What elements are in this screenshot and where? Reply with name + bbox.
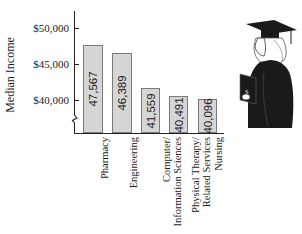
- y-tick-label: $40,000: [33, 94, 69, 106]
- bar-value: 46,389: [116, 75, 128, 110]
- y-tick: [74, 28, 79, 29]
- y-tick-label: $50,000: [33, 22, 69, 34]
- bar-engineering: 46,389: [112, 53, 132, 133]
- bar-value: 41,559: [145, 93, 157, 128]
- axis-break-icon: [69, 112, 81, 126]
- y-tick: [74, 100, 79, 101]
- bar-physical-therapy: 40,491: [169, 96, 188, 133]
- graduate-illustration-icon: $: [234, 8, 300, 136]
- bar-pharmacy: 47,567: [83, 45, 103, 133]
- y-tick: [74, 64, 79, 65]
- y-axis-label: Median Income: [3, 37, 18, 113]
- bar-value: 40,096: [202, 98, 214, 133]
- bar-value: 40,491: [173, 97, 185, 132]
- y-tick-label: $45,000: [33, 58, 69, 70]
- bar-computer-information-sciences: 41,559: [141, 88, 160, 133]
- bar-value: 47,567: [87, 71, 99, 106]
- bar-nursing: 40,096: [198, 99, 217, 133]
